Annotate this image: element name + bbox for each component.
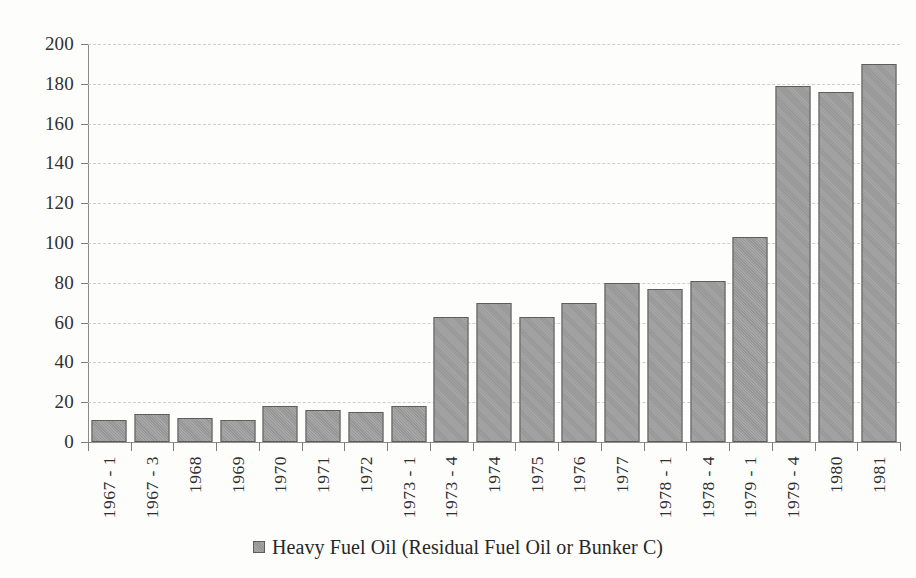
bar[interactable] — [818, 92, 853, 442]
x-axis-tick — [131, 442, 132, 451]
y-axis-tick-label: 140 — [18, 153, 74, 172]
bar[interactable] — [391, 406, 426, 442]
x-axis-baseline — [88, 442, 900, 443]
bar-slot — [644, 44, 687, 442]
x-axis-tick — [686, 442, 687, 451]
bar-slot — [815, 44, 858, 442]
y-axis-tick-label: 180 — [18, 74, 74, 93]
bar-slot — [686, 44, 729, 442]
x-axis-tick-label: 1967 - 3 — [145, 456, 159, 518]
x-axis-tick-label: 1979 - 4 — [786, 456, 800, 518]
x-axis-tick-label: 1969 — [231, 456, 245, 493]
bar-slot — [601, 44, 644, 442]
y-axis-tick-label: 80 — [18, 273, 74, 292]
bar[interactable] — [263, 406, 298, 442]
bar[interactable] — [733, 237, 768, 442]
bar-chart: 200180160140120100806040200 1967 - 11967… — [0, 0, 916, 578]
x-axis-tick — [729, 442, 730, 451]
y-axis-tick-label: 20 — [18, 392, 74, 411]
bar-slot — [558, 44, 601, 442]
bar[interactable] — [177, 418, 212, 442]
x-axis-tick-label: 1972 — [359, 456, 373, 493]
x-axis-tick — [857, 442, 858, 451]
x-axis-tick — [173, 442, 174, 451]
bar-slot — [729, 44, 772, 442]
x-axis-tick-label: 1970 — [273, 456, 287, 493]
x-axis-tick — [515, 442, 516, 451]
y-axis-tick-label: 40 — [18, 352, 74, 371]
bar-slot — [344, 44, 387, 442]
y-axis-tick-label: 200 — [18, 34, 74, 53]
bar[interactable] — [776, 86, 811, 442]
y-axis-tick-label: 120 — [18, 193, 74, 212]
y-axis-tick-label: 100 — [18, 233, 74, 252]
legend-label: Heavy Fuel Oil (Residual Fuel Oil or Bun… — [272, 536, 663, 558]
bar[interactable] — [306, 410, 341, 442]
x-axis-tick — [772, 442, 773, 451]
x-axis-tick-label: 1981 — [872, 456, 886, 493]
bar-slot — [857, 44, 900, 442]
bar-slot — [259, 44, 302, 442]
y-axis-tick-label: 0 — [18, 432, 74, 451]
x-axis-tick — [644, 442, 645, 451]
x-axis-tick-label: 1978 - 1 — [658, 456, 672, 518]
bar-slot — [131, 44, 174, 442]
bar[interactable] — [434, 317, 469, 442]
x-axis-tick — [558, 442, 559, 451]
x-axis-tick-label: 1971 — [316, 456, 330, 493]
bar-slot — [772, 44, 815, 442]
x-axis-tick-label: 1976 — [572, 456, 586, 493]
x-axis-tick — [88, 442, 89, 451]
y-axis-tick-label: 60 — [18, 313, 74, 332]
x-axis-tick-label: 1979 - 1 — [743, 456, 757, 518]
bar[interactable] — [605, 283, 640, 442]
x-axis-tick — [815, 442, 816, 451]
chart-legend: Heavy Fuel Oil (Residual Fuel Oil or Bun… — [0, 536, 916, 558]
x-axis-tick — [387, 442, 388, 451]
x-axis-tick-label: 1975 — [530, 456, 544, 493]
x-axis-tick-label: 1974 — [487, 456, 501, 493]
bar[interactable] — [519, 317, 554, 442]
bar[interactable] — [135, 414, 170, 442]
bar[interactable] — [690, 281, 725, 442]
bar-slot — [515, 44, 558, 442]
x-axis-tick-label: 1968 — [188, 456, 202, 493]
x-axis-tick — [601, 442, 602, 451]
bar-slot — [302, 44, 345, 442]
bar[interactable] — [861, 64, 896, 442]
x-axis-tick-label: 1973 - 1 — [402, 456, 416, 518]
x-axis-tick — [259, 442, 260, 451]
x-axis-tick — [344, 442, 345, 451]
x-axis-tick — [216, 442, 217, 451]
x-axis-tick — [302, 442, 303, 451]
bar-slot — [173, 44, 216, 442]
bar[interactable] — [562, 303, 597, 442]
bar-slot — [216, 44, 259, 442]
bar[interactable] — [348, 412, 383, 442]
x-axis-tick — [900, 442, 901, 451]
y-axis-tick-label: 160 — [18, 114, 74, 133]
x-axis-tick-label: 1967 - 1 — [102, 456, 116, 518]
x-axis-tick-label: 1978 - 4 — [701, 456, 715, 518]
bar-slot — [430, 44, 473, 442]
x-axis-tick — [430, 442, 431, 451]
bars-layer — [88, 44, 900, 442]
x-axis-tick-label: 1977 — [615, 456, 629, 493]
x-axis-tick-label: 1980 — [829, 456, 843, 493]
bar[interactable] — [220, 420, 255, 442]
bar-slot — [473, 44, 516, 442]
bar-slot — [387, 44, 430, 442]
bar[interactable] — [92, 420, 127, 442]
bar-slot — [88, 44, 131, 442]
x-axis-tick — [473, 442, 474, 451]
x-axis-tick-label: 1973 - 4 — [444, 456, 458, 518]
legend-swatch — [253, 541, 265, 553]
bar[interactable] — [476, 303, 511, 442]
bar[interactable] — [647, 289, 682, 442]
